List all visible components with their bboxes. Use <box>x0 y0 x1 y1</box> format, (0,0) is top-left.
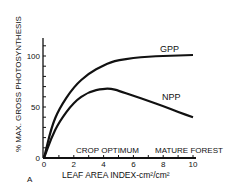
svg-text:100: 100 <box>27 52 41 61</box>
x-tick-labels: 0246810 <box>42 160 198 169</box>
svg-text:50: 50 <box>31 103 40 112</box>
y-tick-labels: 050100 <box>27 52 41 163</box>
svg-text:2: 2 <box>72 160 77 169</box>
svg-text:10: 10 <box>189 160 198 169</box>
svg-text:0: 0 <box>42 160 47 169</box>
panel-label: A <box>27 175 33 184</box>
svg-text:0: 0 <box>36 154 41 163</box>
mature-forest-annotation: MATURE FOREST <box>155 146 223 155</box>
gpp-curve <box>44 55 193 158</box>
chart: GPP NPP CROP OPTIMUM MATURE FOREST 05010… <box>0 0 245 192</box>
svg-text:6: 6 <box>131 160 136 169</box>
crop-optimum-annotation: CROP OPTIMUM <box>76 146 139 155</box>
y-axis-label: % MAX. GROSS PHOTOSYNTHESIS <box>14 16 23 152</box>
svg-text:8: 8 <box>161 160 166 169</box>
gpp-label: GPP <box>160 44 179 54</box>
npp-label: NPP <box>162 92 181 102</box>
svg-text:4: 4 <box>101 160 106 169</box>
x-axis-label: LEAF AREA INDEX-cm²/cm² <box>62 170 170 180</box>
